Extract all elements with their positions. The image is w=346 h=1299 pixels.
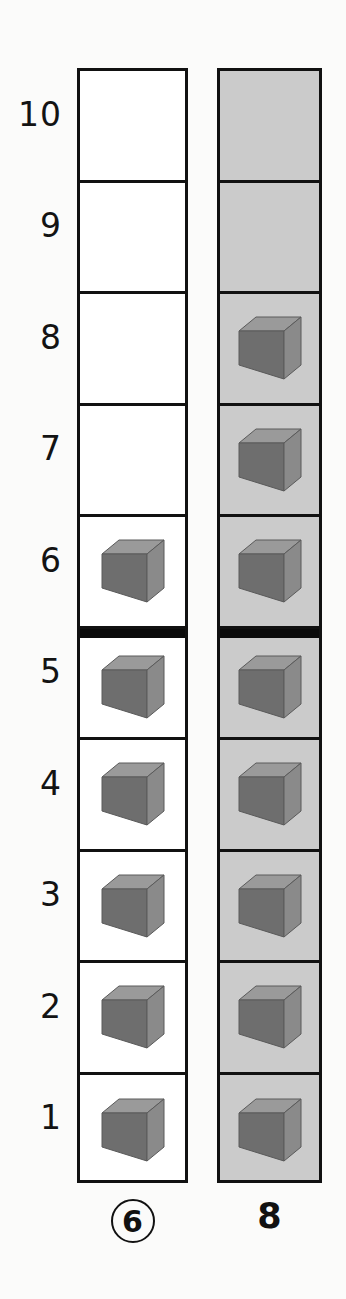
cell-right-column-row-1[interactable] xyxy=(220,1075,319,1187)
left-column[interactable] xyxy=(77,68,188,1183)
cell-right-column-row-3[interactable] xyxy=(220,852,319,964)
cube-icon xyxy=(236,426,304,494)
cube-icon xyxy=(99,537,167,605)
cell-left-column-row-10[interactable] xyxy=(80,71,185,183)
row-label-3: 3 xyxy=(0,878,62,911)
cube-icon xyxy=(236,537,304,605)
left-column-total: 6 xyxy=(77,1199,188,1243)
row-label-8: 8 xyxy=(0,321,62,354)
row-label-7: 7 xyxy=(0,432,62,465)
cell-left-column-row-2[interactable] xyxy=(80,963,185,1075)
row-label-1: 1 xyxy=(0,1101,62,1134)
row-label-6: 6 xyxy=(0,544,62,577)
row-label-2: 2 xyxy=(0,990,62,1023)
row-label-9: 9 xyxy=(0,209,62,242)
row-label-column: 10987654321 xyxy=(0,68,70,1183)
cell-right-column-row-9[interactable] xyxy=(220,183,319,295)
cell-right-column-row-2[interactable] xyxy=(220,963,319,1075)
cube-icon xyxy=(99,1096,167,1164)
right-column[interactable] xyxy=(217,68,322,1183)
worksheet-canvas: 10987654321 6 8 xyxy=(0,0,346,1299)
cell-right-column-row-6[interactable] xyxy=(220,517,319,629)
cell-left-column-row-8[interactable] xyxy=(80,294,185,406)
cell-left-column-row-3[interactable] xyxy=(80,852,185,964)
cube-icon xyxy=(99,653,167,721)
cube-icon xyxy=(99,760,167,828)
cell-left-column-row-6[interactable] xyxy=(80,517,185,629)
cell-right-column-row-7[interactable] xyxy=(220,406,319,518)
cell-right-column-row-4[interactable] xyxy=(220,740,319,852)
right-column-total: 8 xyxy=(217,1199,322,1234)
cube-icon xyxy=(236,760,304,828)
cell-right-column-row-5[interactable] xyxy=(220,629,319,741)
cell-left-column-row-7[interactable] xyxy=(80,406,185,518)
right-total-value: 8 xyxy=(257,1196,281,1236)
left-total-value: 6 xyxy=(111,1199,155,1243)
cell-right-column-row-10[interactable] xyxy=(220,71,319,183)
cube-icon xyxy=(236,1096,304,1164)
cube-icon xyxy=(236,314,304,382)
cell-left-column-row-9[interactable] xyxy=(80,183,185,295)
cube-icon xyxy=(236,872,304,940)
cube-icon xyxy=(99,872,167,940)
cube-icon xyxy=(236,983,304,1051)
cell-left-column-row-4[interactable] xyxy=(80,740,185,852)
cell-left-column-row-5[interactable] xyxy=(80,629,185,741)
row-label-4: 4 xyxy=(0,767,62,800)
row-label-10: 10 xyxy=(0,98,62,131)
cell-left-column-row-1[interactable] xyxy=(80,1075,185,1187)
cube-icon xyxy=(99,983,167,1051)
cube-icon xyxy=(236,653,304,721)
row-label-5: 5 xyxy=(0,655,62,688)
cell-right-column-row-8[interactable] xyxy=(220,294,319,406)
